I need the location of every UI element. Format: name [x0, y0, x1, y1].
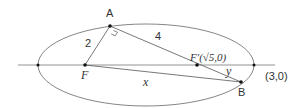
label-F-prime-B-length: y [225, 64, 232, 78]
point-right-vertex [253, 64, 256, 67]
label-AF-prime-length: 4 [155, 30, 161, 42]
ellipse-diagram: A F F′(√5,0) B (3,0) 2 4 x y [0, 0, 303, 108]
right-angle-mark [111, 31, 117, 36]
label-F-prime: F′(√5,0) [189, 51, 227, 64]
point-left-vertex [37, 64, 40, 67]
label-right-vertex: (3,0) [265, 70, 288, 82]
point-B [239, 80, 243, 84]
segment-FB [85, 65, 241, 82]
point-F-prime [195, 63, 199, 67]
label-F: F [80, 68, 89, 82]
label-A: A [106, 7, 114, 19]
label-B: B [238, 86, 245, 98]
label-FB-length: x [142, 75, 149, 89]
label-AF-length: 2 [85, 37, 91, 49]
point-A [108, 24, 112, 28]
point-F [83, 63, 87, 67]
